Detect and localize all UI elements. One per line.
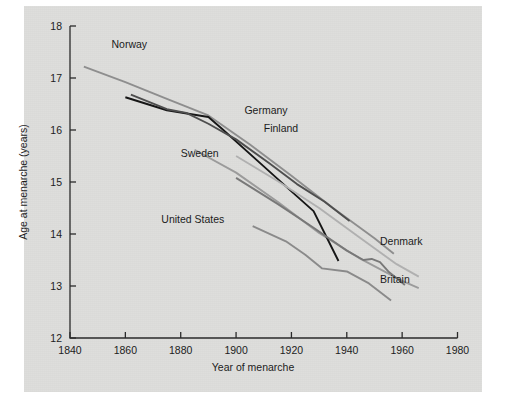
series-line-norway	[84, 67, 394, 254]
figure-container: 1840186018801900192019401960198012131415…	[0, 0, 506, 414]
series-label-sweden: Sweden	[181, 147, 219, 159]
series-label-britain: Britain	[380, 273, 410, 285]
y-tick-label: 18	[50, 20, 62, 32]
line-chart: 1840186018801900192019401960198012131415…	[0, 0, 506, 414]
x-tick-label: 1980	[446, 344, 470, 356]
chart-svg-wrapper: 1840186018801900192019401960198012131415…	[0, 0, 506, 414]
series-label-norway: Norway	[112, 38, 148, 50]
series-label-denmark: Denmark	[380, 235, 423, 247]
y-tick-label: 12	[50, 332, 62, 344]
series-layer	[84, 67, 419, 301]
x-tick-label: 1880	[169, 344, 193, 356]
y-tick-label: 17	[50, 72, 62, 84]
series-label-germany: Germany	[244, 104, 288, 116]
series-label-finland: Finland	[264, 122, 299, 134]
x-tick-label: 1900	[224, 344, 248, 356]
x-tick-label: 1920	[280, 344, 304, 356]
series-line-germany	[125, 97, 338, 261]
y-tick-label: 13	[50, 280, 62, 292]
x-tick-label: 1940	[335, 344, 359, 356]
axis-layer: 1840186018801900192019401960198012131415…	[50, 20, 469, 356]
x-tick-label: 1960	[390, 344, 414, 356]
x-tick-label: 1860	[114, 344, 138, 356]
x-tick-label: 1840	[58, 344, 82, 356]
axis-lines	[70, 26, 458, 338]
series-label-united-states: United States	[161, 213, 224, 225]
y-tick-label: 16	[50, 124, 62, 136]
y-axis-title: Age at menarche (years)	[17, 124, 29, 240]
y-tick-label: 14	[50, 228, 62, 240]
y-tick-label: 15	[50, 176, 62, 188]
series-line-denmark	[236, 156, 419, 277]
x-axis-title: Year of menarche	[212, 361, 295, 373]
